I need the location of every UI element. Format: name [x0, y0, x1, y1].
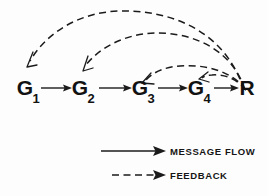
node-g4-subscript: 4 — [203, 91, 211, 106]
feedback-arc-r-to-g2-path — [85, 33, 245, 90]
nodes-group: G 1 G 2 G 3 G 4 R — [17, 76, 255, 106]
diagram-canvas: G 1 G 2 G 3 G 4 R M — [0, 0, 268, 196]
legend-feedback-arrowhead — [153, 170, 166, 180]
node-g1-label: G — [17, 76, 33, 99]
diagram-svg: G 1 G 2 G 3 G 4 R M — [0, 0, 268, 196]
node-g4-label: G — [188, 76, 204, 99]
feedback-arc-r-to-g1-arrowhead — [27, 52, 37, 67]
feedback-arc-r-to-g2 — [83, 33, 245, 90]
node-g3-subscript: 3 — [147, 91, 154, 106]
legend-item-feedback: FEEDBACK — [112, 170, 228, 181]
node-g3[interactable]: G 3 — [132, 76, 155, 106]
flow-edge-g3-to-g4 — [158, 85, 188, 92]
legend: MESSAGE FLOW FEEDBACK — [101, 146, 255, 181]
node-g2[interactable]: G 2 — [72, 76, 95, 106]
node-g2-label: G — [72, 76, 88, 99]
legend-item-message-flow: MESSAGE FLOW — [101, 146, 255, 157]
node-g1[interactable]: G 1 — [17, 76, 40, 106]
flow-edge-g4-to-r — [214, 85, 239, 92]
node-g4[interactable]: G 4 — [188, 76, 212, 106]
legend-feedback-label: FEEDBACK — [170, 170, 228, 181]
node-r-label: R — [239, 76, 254, 99]
flow-edge-g1-to-g2 — [41, 85, 72, 92]
node-g2-subscript: 2 — [87, 91, 94, 106]
node-g3-label: G — [132, 76, 148, 99]
node-g1-subscript: 1 — [32, 91, 39, 106]
node-r[interactable]: R — [239, 76, 254, 99]
flow-edge-g2-to-g3 — [99, 85, 132, 92]
legend-message-flow-label: MESSAGE FLOW — [170, 146, 255, 157]
